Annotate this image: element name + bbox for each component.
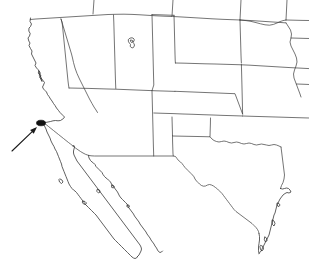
arizona-new-mexico-border	[152, 91, 154, 156]
texas-panhandle-west-border	[173, 136, 174, 156]
baja-peninsula-notch-detail	[59, 179, 63, 184]
wyoming-south-dakota-nebraska-border	[240, 20, 241, 63]
colorado-kansas-border	[241, 65, 242, 114]
nebraska-kansas-border	[241, 65, 309, 69]
montana-north-dakota-border-stub	[240, 0, 241, 20]
oregon-idaho-border-stub	[93, 0, 94, 14]
san-francisco-bay	[39, 71, 42, 82]
colorado-new-mexico-south-border	[154, 113, 243, 116]
leader-arrow-shaft	[12, 132, 32, 151]
colorado-north-border	[175, 63, 241, 65]
texas-barrier-island-detail	[272, 220, 275, 226]
baja-california-pacific-coast	[44, 123, 138, 259]
texas-lower-coast-detail	[265, 237, 268, 242]
texas-coastal-bay-detail	[277, 203, 280, 207]
pacific-coastline-california	[28, 18, 65, 123]
north-dakota-minnesota-stub-north	[286, 0, 287, 20]
montana-wyoming-border	[173, 17, 240, 21]
minnesota-east-stub	[286, 20, 309, 21]
utah-wyoming-notch-border	[152, 15, 174, 16]
colorado-new-mexico-oklahoma-border	[175, 91, 243, 114]
gulf-of-mexico-texas-coastline	[259, 188, 291, 254]
baja-gulf-island-detail	[97, 190, 100, 194]
map-figure	[0, 0, 309, 275]
rio-grande-mouth	[259, 234, 260, 254]
texas-oklahoma-red-river-border	[210, 137, 281, 147]
outline-map-canvas	[0, 0, 309, 275]
utah-colorado-border	[152, 15, 154, 91]
nebraska-iowa-missouri-stub	[297, 84, 310, 85]
idaho-montana-wyoming-border-stub	[172, 0, 173, 17]
california-oregon-border	[30, 14, 172, 19]
nevada-utah-arizona-border	[61, 19, 69, 88]
kansas-oklahoma-border	[243, 116, 309, 118]
study-site-marker	[37, 120, 46, 126]
mexico-mainland-gulf-of-california-coast	[89, 156, 163, 253]
us-mexico-border	[44, 123, 260, 234]
great-salt-lake-inner-detail	[131, 40, 133, 43]
wyoming-colorado-border	[174, 15, 175, 63]
nevada-utah-vertical-border	[114, 15, 116, 89]
missouri-river-eastern-boundary	[286, 23, 301, 97]
texas-louisiana-border	[281, 147, 285, 189]
north-dakota-south-dakota-border	[240, 20, 286, 23]
oklahoma-panhandle-texas-border	[172, 117, 211, 137]
south-dakota-minnesota-stub	[291, 38, 309, 39]
